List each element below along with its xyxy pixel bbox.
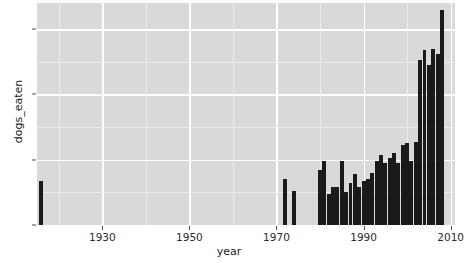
gridline-minor-y xyxy=(37,62,455,63)
bar xyxy=(375,161,379,225)
bar xyxy=(331,187,335,225)
bar xyxy=(383,163,387,225)
bar xyxy=(327,194,331,225)
bar xyxy=(409,161,413,225)
bar xyxy=(39,181,43,225)
bar xyxy=(292,191,296,225)
y-tick-mark xyxy=(32,29,36,30)
y-axis-title: dogs_eaten xyxy=(12,67,25,157)
bar xyxy=(370,173,374,225)
bar xyxy=(427,65,431,225)
gridline-major-y xyxy=(37,29,455,30)
gridline-major-x xyxy=(451,3,452,225)
bar xyxy=(418,60,422,225)
x-tick-mark xyxy=(364,226,365,230)
bar xyxy=(392,153,396,225)
bar xyxy=(379,155,383,225)
bar xyxy=(396,163,400,225)
x-axis-title: year xyxy=(0,245,458,258)
bar xyxy=(344,192,348,225)
x-tick-mark xyxy=(451,226,452,230)
bar xyxy=(405,143,409,225)
bar xyxy=(322,161,326,225)
bar xyxy=(414,142,418,225)
x-tick-label: 1950 xyxy=(176,231,203,243)
bar xyxy=(357,187,361,225)
x-tick-mark xyxy=(276,226,277,230)
bar xyxy=(388,158,392,225)
gridline-minor-x xyxy=(233,3,234,225)
gridline-minor-x xyxy=(59,3,60,225)
y-tick-mark xyxy=(32,159,36,160)
gridline-minor-x xyxy=(146,3,147,225)
y-tick-mark xyxy=(32,94,36,95)
bar xyxy=(362,181,366,225)
x-tick-label: 2010 xyxy=(437,231,464,243)
x-tick-label: 1970 xyxy=(263,231,290,243)
bar xyxy=(436,54,440,225)
x-tick-mark xyxy=(102,226,103,230)
bar xyxy=(335,187,339,225)
y-tick-mark xyxy=(32,225,36,226)
x-tick-label: 1930 xyxy=(89,231,116,243)
x-tick-label: 1990 xyxy=(350,231,377,243)
bar xyxy=(340,161,344,225)
bar xyxy=(366,179,370,225)
plot-panel xyxy=(37,3,455,225)
gridline-minor-y xyxy=(37,127,455,128)
bar xyxy=(401,145,405,225)
bar xyxy=(440,10,444,225)
bar xyxy=(423,50,427,225)
bar xyxy=(318,170,322,226)
gridline-major-x xyxy=(276,3,277,225)
bar xyxy=(431,49,435,225)
bar xyxy=(349,183,353,225)
bar xyxy=(353,174,357,225)
x-tick-mark xyxy=(189,226,190,230)
bar xyxy=(283,179,287,225)
gridline-major-x xyxy=(189,3,190,225)
gridline-major-y xyxy=(37,94,455,95)
gridline-major-x xyxy=(102,3,103,225)
